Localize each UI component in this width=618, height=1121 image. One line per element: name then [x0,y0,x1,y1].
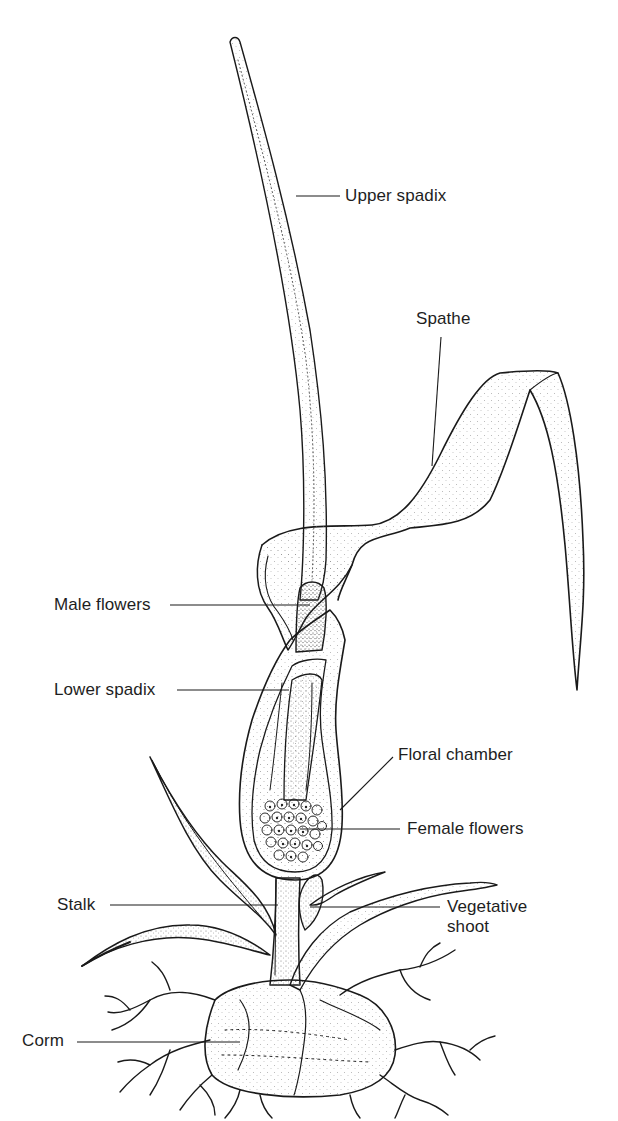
leader-spathe [432,337,441,466]
label-upper-spadix: Upper spadix [345,186,446,206]
arum-inflorescence-diagram: Upper spadix Spathe Male flowers Lower s… [0,0,618,1121]
leader-floral-chamber [340,757,393,810]
label-male-flowers: Male flowers [54,595,151,615]
label-lower-spadix: Lower spadix [54,680,155,700]
label-spathe: Spathe [416,309,470,329]
label-female-flowers: Female flowers [407,819,524,839]
stalk-shape [270,878,300,985]
label-vegetative-shoot: Vegetative shoot [447,897,527,937]
label-corm: Corm [22,1031,64,1051]
corm-shape [205,980,395,1097]
label-stalk: Stalk [57,895,95,915]
botanical-illustration [0,0,618,1121]
upper-spadix-shape [230,38,326,601]
left-leaf-lower [82,925,270,966]
label-floral-chamber: Floral chamber [398,745,513,765]
